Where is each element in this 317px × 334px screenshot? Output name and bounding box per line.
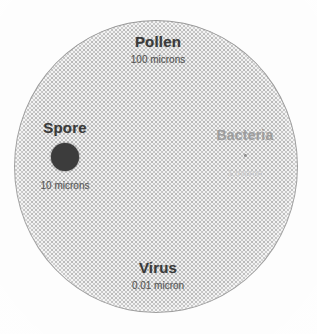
pollen-size-label: 100 microns	[58, 53, 258, 67]
spore-size-label: 10 microns	[4, 179, 126, 193]
bacteria-size-label: 1 micron	[185, 167, 305, 180]
label-group-pollen: Pollen 100 microns	[58, 33, 258, 67]
label-group-virus: Virus 0.01 micron	[58, 258, 258, 293]
spore-heading: Spore	[4, 119, 126, 136]
label-group-spore: Spore 10 microns	[4, 119, 126, 193]
label-group-bacteria: Bacteria 1 micron	[185, 127, 305, 180]
pollen-heading: Pollen	[58, 33, 258, 50]
spore-circle-marker	[51, 143, 79, 171]
virus-size-label: 0.01 micron	[58, 279, 258, 293]
virus-heading: Virus	[58, 259, 258, 276]
bacteria-dot-marker	[244, 154, 247, 157]
bacteria-heading: Bacteria	[185, 127, 305, 143]
particle-size-diagram: Pollen 100 microns Spore 10 microns Bact…	[0, 0, 317, 334]
